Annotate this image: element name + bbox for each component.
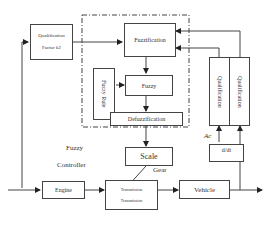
fuzzy-label: Fuzzy — [142, 83, 157, 89]
fuzzy-rule-label: Fuzzy Rule — [101, 80, 107, 108]
ac-label: Ac — [204, 132, 211, 140]
engine-block: Engine — [42, 181, 85, 199]
transmission-line2: Transmission — [121, 198, 142, 203]
vehicle-label: Vehicle — [194, 186, 215, 194]
defuzzification-label: Defuzzification — [128, 116, 165, 122]
ddt-label: d/dt — [222, 147, 231, 153]
scale-label: Scale — [140, 152, 157, 161]
qualification-right-block: Qualification — [229, 57, 250, 126]
fuzzy-controller-label-line2: Controller — [57, 161, 86, 169]
fuzzification-block: Fuzzification — [124, 23, 176, 57]
transmission-line1: Transmission — [121, 187, 142, 192]
defuzzification-block: Defuzzification — [110, 112, 183, 126]
qualification-factor-block: Qualification Factor k2 — [30, 24, 73, 60]
fuzzy-controller-label-line1: Fuzzy — [66, 144, 83, 152]
ddt-block: d/dt — [209, 144, 244, 162]
qualification-factor-line2: Factor k2 — [42, 44, 61, 52]
fuzzy-block: Fuzzy — [125, 75, 173, 96]
transmission-block: Transmission Transmission — [105, 180, 158, 210]
qualification-right-label: Qualification — [237, 76, 243, 108]
gear-label: Gear — [153, 166, 167, 174]
fuzzification-label: Fuzzification — [134, 37, 166, 43]
vehicle-block: Vehicle — [179, 180, 230, 199]
qualification-left-label: Qualification — [217, 76, 223, 108]
engine-label: Engine — [55, 187, 72, 193]
qualification-factor-line1: Qualification — [38, 32, 64, 40]
scale-block: Scale — [125, 147, 173, 166]
qualification-left-block: Qualification — [209, 57, 230, 126]
